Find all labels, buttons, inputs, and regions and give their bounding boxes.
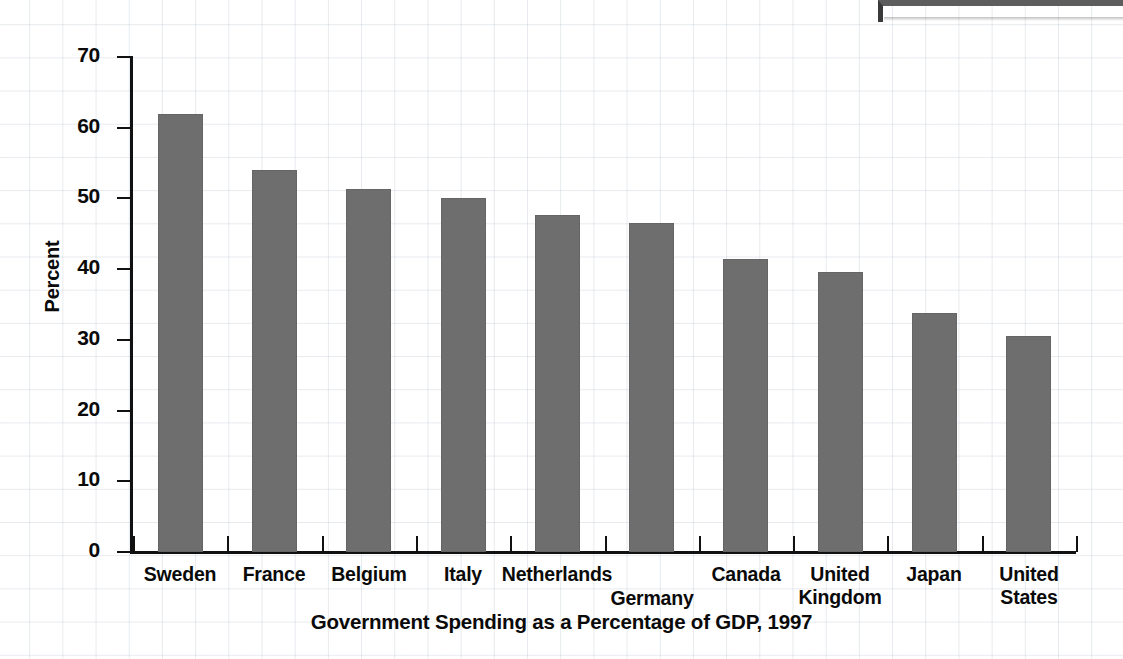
y-axis-tick (117, 551, 131, 553)
bar-chart-plot-area: Percent 010203040506070 SwedenFranceBelg… (0, 0, 1123, 659)
x-axis-tick (699, 536, 701, 552)
y-axis-tick-label: 20 (48, 397, 100, 421)
x-axis-tick (227, 536, 229, 552)
x-axis-tick (510, 536, 512, 552)
y-axis-line (130, 56, 133, 553)
y-axis-tick (117, 339, 131, 341)
y-axis-tick-label: 50 (48, 184, 100, 208)
y-axis-tick-label: 40 (48, 255, 100, 279)
y-axis-tick (117, 480, 131, 482)
bar-canada (723, 259, 768, 552)
y-axis-tick (117, 56, 131, 58)
y-axis-tick (117, 127, 131, 129)
bar-germany (629, 223, 674, 552)
x-axis-tick (322, 536, 324, 552)
bar-japan (912, 313, 957, 552)
y-axis-tick-label: 70 (48, 43, 100, 67)
x-label-netherlands: Netherlands (498, 563, 616, 586)
bar-france (252, 170, 297, 552)
y-axis-tick (117, 197, 131, 199)
y-axis-tick-label: 0 (48, 538, 100, 562)
bar-italy (441, 198, 486, 552)
x-label-germany: Germany (593, 587, 711, 610)
x-axis-tick (982, 536, 984, 552)
y-axis-tick-label: 30 (48, 326, 100, 350)
chart-title: Government Spending as a Percentage of G… (0, 610, 1123, 634)
y-axis-tick-label: 10 (48, 467, 100, 491)
x-axis-tick (416, 536, 418, 552)
x-axis-tick (605, 536, 607, 552)
x-axis-tick (1076, 536, 1078, 552)
bar-sweden (158, 114, 203, 552)
y-axis-tick (117, 268, 131, 270)
x-axis-tick (793, 536, 795, 552)
x-axis-tick (133, 536, 135, 552)
bar-united-states (1006, 336, 1051, 552)
bar-belgium (346, 189, 391, 552)
y-axis-tick-label: 60 (48, 114, 100, 138)
x-axis-tick (887, 536, 889, 552)
chart-page: Percent 010203040506070 SwedenFranceBelg… (0, 0, 1123, 659)
x-label-united-states: United States (970, 563, 1088, 609)
bar-united-kingdom (818, 272, 863, 552)
bar-netherlands (535, 215, 580, 552)
y-axis-tick (117, 410, 131, 412)
